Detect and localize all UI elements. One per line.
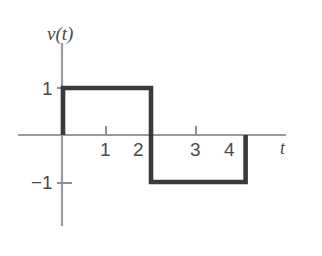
x-tick-label-3: 3 [190,140,201,159]
x-tick-label-4: 4 [224,140,235,159]
signal-plot-figure: v(t) t 1 −1 1 2 3 4 [0,0,322,256]
y-tick-label-pos1: 1 [42,79,53,98]
x-tick-label-1: 1 [100,140,111,159]
x-tick-label-2: 2 [133,140,144,159]
y-axis-label: v(t) [47,24,73,43]
x-axis-label: t [280,139,285,157]
y-tick-label-neg1: −1 [31,173,53,192]
